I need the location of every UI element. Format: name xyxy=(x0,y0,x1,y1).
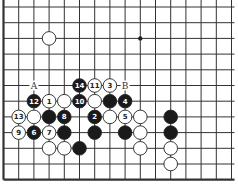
black-stone xyxy=(58,126,72,140)
white-stone xyxy=(42,142,56,156)
move-number: 13 xyxy=(14,113,24,121)
move-number: 7 xyxy=(47,129,52,137)
stone-body xyxy=(103,110,117,124)
move-number: 12 xyxy=(29,98,39,106)
white-stone: 5 xyxy=(118,110,132,124)
stone-body xyxy=(134,126,148,140)
stone-body xyxy=(164,157,178,171)
star-point xyxy=(138,36,142,40)
black-stone xyxy=(118,126,132,140)
move-number: 10 xyxy=(75,98,85,106)
white-stone xyxy=(42,32,56,46)
star-points xyxy=(138,36,142,40)
move-number: 5 xyxy=(123,113,128,121)
stone-body xyxy=(103,94,117,108)
black-stone: 14 xyxy=(73,79,87,93)
point-label-a: A xyxy=(30,81,38,91)
white-stone: 7 xyxy=(42,126,56,140)
move-number: 1 xyxy=(47,98,52,106)
white-stone xyxy=(58,142,72,156)
white-stone: 11 xyxy=(88,79,102,93)
stone-body xyxy=(134,110,148,124)
move-number: 3 xyxy=(107,82,112,90)
white-stone xyxy=(164,157,178,171)
stone-body xyxy=(27,110,41,124)
stone-body xyxy=(134,142,148,156)
black-stone xyxy=(42,110,56,124)
move-number: 6 xyxy=(31,129,36,137)
stone-body xyxy=(88,126,102,140)
stone-body xyxy=(164,126,178,140)
stone-body xyxy=(42,110,56,124)
black-stone xyxy=(164,110,178,124)
move-number: 8 xyxy=(62,113,67,121)
black-stone: 12 xyxy=(27,94,41,108)
black-stone: 6 xyxy=(27,126,41,140)
white-stone: 9 xyxy=(12,126,26,140)
stone-body xyxy=(42,32,56,46)
white-stone xyxy=(134,126,148,140)
white-stone: 3 xyxy=(103,79,117,93)
go-board-diagram: AB 1411312110413825967 xyxy=(0,0,238,190)
move-number: 9 xyxy=(16,129,21,137)
stone-body xyxy=(58,94,72,108)
stone-body xyxy=(164,110,178,124)
black-stone: 10 xyxy=(73,94,87,108)
black-stone xyxy=(88,126,102,140)
stone-body xyxy=(42,142,56,156)
black-stone: 4 xyxy=(118,94,132,108)
white-stone xyxy=(134,110,148,124)
move-number: 4 xyxy=(123,98,128,106)
white-stone xyxy=(164,142,178,156)
white-stone xyxy=(103,110,117,124)
white-stone xyxy=(27,110,41,124)
black-stone xyxy=(73,142,87,156)
stone-body xyxy=(118,126,132,140)
stone-body xyxy=(73,142,87,156)
stone-body xyxy=(58,126,72,140)
black-stone xyxy=(103,94,117,108)
black-stone: 8 xyxy=(58,110,72,124)
move-number: 11 xyxy=(90,82,100,90)
white-stone xyxy=(134,142,148,156)
point-label-b: B xyxy=(122,81,129,91)
black-stone: 2 xyxy=(88,110,102,124)
black-stone xyxy=(164,126,178,140)
white-stone: 13 xyxy=(12,110,26,124)
stone-body xyxy=(164,142,178,156)
move-number: 14 xyxy=(75,82,85,90)
stone-body xyxy=(88,94,102,108)
stone-body xyxy=(58,142,72,156)
white-stone: 1 xyxy=(42,94,56,108)
white-stone xyxy=(88,94,102,108)
white-stone xyxy=(58,94,72,108)
move-number: 2 xyxy=(92,113,97,121)
